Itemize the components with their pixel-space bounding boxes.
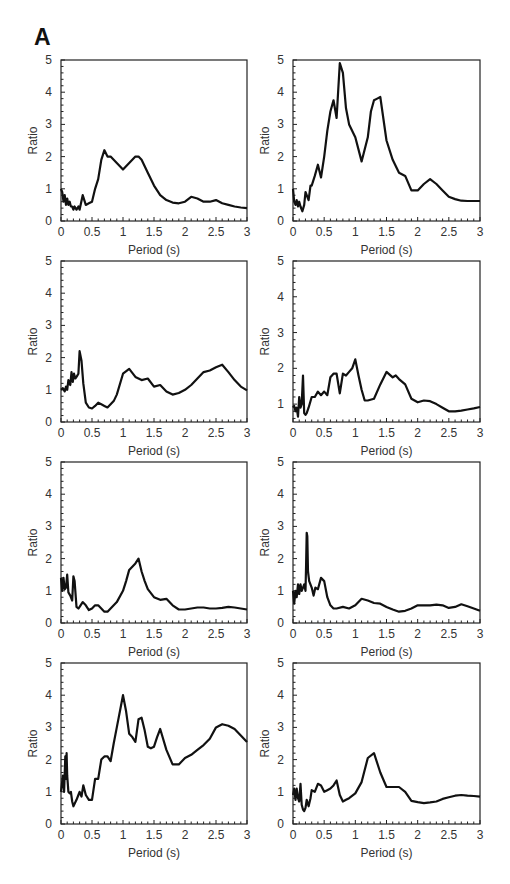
y-axis-title: Ratio xyxy=(26,729,40,757)
y-axis-title: Ratio xyxy=(26,528,40,556)
y-tick-label: 1 xyxy=(277,584,284,598)
x-tick-label: 2.5 xyxy=(440,426,457,440)
x-tick-label: 0 xyxy=(58,426,65,440)
spectral-ratio-chart-5: 00.511.522.53012345Period (s)Ratio xyxy=(21,456,255,669)
x-tick-label: 2.5 xyxy=(440,627,457,641)
ratio-curve xyxy=(293,63,480,211)
x-tick-label: 3 xyxy=(244,828,251,842)
y-tick-label: 1 xyxy=(45,785,52,799)
x-tick-label: 0 xyxy=(58,627,65,641)
x-tick-label: 2 xyxy=(182,828,189,842)
x-tick-label: 0 xyxy=(290,627,297,641)
y-tick-label: 2 xyxy=(45,150,52,164)
x-tick-label: 0 xyxy=(290,225,297,239)
spectral-ratio-chart-7: 00.511.522.53012345Period (s)Ratio xyxy=(21,657,255,870)
y-axis-title: Ratio xyxy=(258,126,272,154)
ratio-curve xyxy=(61,559,247,612)
x-tick-label: 3 xyxy=(477,225,484,239)
x-tick-label: 2 xyxy=(182,627,189,641)
x-tick-label: 1 xyxy=(120,627,127,641)
y-tick-label: 5 xyxy=(45,456,52,469)
y-tick-label: 3 xyxy=(45,117,52,131)
y-tick-label: 2 xyxy=(277,150,284,164)
y-tick-label: 4 xyxy=(45,688,52,702)
y-tick-label: 3 xyxy=(277,519,284,533)
x-tick-label: 1 xyxy=(352,225,359,239)
x-tick-label: 2 xyxy=(414,426,421,440)
x-tick-label: 1 xyxy=(352,627,359,641)
x-tick-label: 2.5 xyxy=(208,426,225,440)
x-tick-label: 1 xyxy=(120,828,127,842)
x-tick-label: 1.5 xyxy=(378,828,395,842)
plot-frame xyxy=(293,261,480,422)
y-tick-label: 2 xyxy=(45,351,52,365)
y-tick-label: 0 xyxy=(45,616,52,630)
x-tick-label: 0 xyxy=(290,828,297,842)
y-tick-label: 0 xyxy=(45,415,52,429)
y-tick-label: 1 xyxy=(45,584,52,598)
x-tick-label: 2 xyxy=(414,828,421,842)
x-tick-label: 0 xyxy=(58,828,65,842)
x-tick-label: 0.5 xyxy=(84,828,101,842)
spectral-ratio-chart-1: 00.511.522.53012345Period (s)Ratio xyxy=(21,54,255,267)
x-tick-label: 0.5 xyxy=(84,225,101,239)
x-tick-label: 2 xyxy=(414,627,421,641)
ratio-curve xyxy=(293,359,480,416)
spectral-ratio-chart-2: 00.511.522.53012345Period (s)Ratio xyxy=(253,54,488,267)
ratio-curve xyxy=(61,695,247,806)
y-tick-label: 4 xyxy=(277,487,284,501)
y-tick-label: 1 xyxy=(277,785,284,799)
x-tick-label: 0.5 xyxy=(316,225,333,239)
y-tick-label: 3 xyxy=(277,720,284,734)
y-tick-label: 2 xyxy=(277,361,284,375)
x-tick-label: 2 xyxy=(182,225,189,239)
spectral-ratio-chart-6: 00.511.522.53012345Period (s)Ratio xyxy=(253,456,488,669)
plot-frame xyxy=(293,462,480,623)
x-tick-label: 3 xyxy=(244,627,251,641)
y-tick-label: 3 xyxy=(277,117,284,131)
x-tick-label: 2 xyxy=(414,225,421,239)
y-tick-label: 5 xyxy=(45,657,52,670)
x-tick-label: 3 xyxy=(477,828,484,842)
y-tick-label: 4 xyxy=(45,286,52,300)
x-tick-label: 1.5 xyxy=(146,828,163,842)
y-tick-label: 1 xyxy=(45,182,52,196)
y-tick-label: 5 xyxy=(277,54,284,67)
y-tick-label: 2 xyxy=(45,552,52,566)
plot-frame xyxy=(293,663,480,824)
x-tick-label: 1.5 xyxy=(146,426,163,440)
y-axis-title: Ratio xyxy=(258,327,272,355)
y-tick-label: 4 xyxy=(277,85,284,99)
y-tick-label: 2 xyxy=(277,753,284,767)
x-tick-label: 3 xyxy=(477,627,484,641)
x-tick-label: 3 xyxy=(244,426,251,440)
x-tick-label: 0.5 xyxy=(84,627,101,641)
y-axis-title: Ratio xyxy=(258,528,272,556)
y-tick-label: 3 xyxy=(45,720,52,734)
x-axis-title: Period (s) xyxy=(360,846,412,860)
y-tick-label: 3 xyxy=(277,326,284,340)
y-tick-label: 5 xyxy=(45,54,52,67)
spectral-ratio-chart-8: 00.511.522.53012345Period (s)Ratio xyxy=(253,657,488,870)
y-tick-label: 3 xyxy=(45,519,52,533)
x-tick-label: 1 xyxy=(120,426,127,440)
x-tick-label: 3 xyxy=(477,426,484,440)
x-tick-label: 0.5 xyxy=(84,426,101,440)
y-tick-label: 2 xyxy=(277,552,284,566)
spectral-ratio-chart-4: 00.511.522.5312345Period (s)Ratio xyxy=(253,255,488,468)
y-tick-label: 1 xyxy=(45,383,52,397)
figure-panel-label: A xyxy=(34,24,51,51)
x-axis-title: Period (s) xyxy=(128,846,180,860)
x-tick-label: 2.5 xyxy=(208,225,225,239)
y-tick-label: 0 xyxy=(277,214,284,228)
y-tick-label: 0 xyxy=(45,214,52,228)
x-tick-label: 0.5 xyxy=(316,426,333,440)
x-tick-label: 2 xyxy=(182,426,189,440)
x-tick-label: 2.5 xyxy=(208,627,225,641)
x-tick-label: 1.5 xyxy=(378,627,395,641)
x-tick-label: 1 xyxy=(352,426,359,440)
y-tick-label: 4 xyxy=(45,487,52,501)
y-tick-label: 5 xyxy=(277,255,284,268)
x-tick-label: 1.5 xyxy=(378,225,395,239)
y-tick-label: 4 xyxy=(45,85,52,99)
